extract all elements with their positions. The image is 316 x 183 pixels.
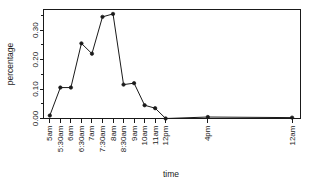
data-point [69,86,72,89]
data-point [164,117,167,120]
data-point [90,52,93,55]
data-point [101,15,104,18]
x-axis-tick-label: 4pm [203,125,212,141]
x-axis-tick-label: 12am [288,125,297,145]
chart-figure: 0.000.100.200.30 5am5:30am6am6:30am7am7:… [0,0,316,183]
data-point [80,42,83,45]
x-axis-tick-label: 5:30am [56,125,65,152]
y-axis-tick-label: 0.10 [31,81,40,97]
y-axis-tick-label: 0.20 [31,51,40,67]
x-axis-tick-label: 8:30am [119,125,128,152]
data-point [143,104,146,107]
x-axis-tick-label: 12pm [161,125,170,145]
data-point [132,81,135,84]
x-axis-tick-label: 7am [87,125,96,141]
data-point [48,114,51,117]
x-axis-tick-label: 9am [130,125,139,141]
chart-background [0,0,316,183]
data-point [122,83,125,86]
x-axis-tick-label: 6am [66,125,75,141]
y-axis-tick-label: 0.30 [31,22,40,38]
data-point [153,106,156,109]
x-axis-title: time [163,169,179,179]
data-point [59,86,62,89]
x-axis-tick-label: 8am [109,125,118,141]
x-axis-tick-label: 6:30am [77,125,86,152]
x-axis-tick-label: 5am [45,125,54,141]
data-point [111,12,114,15]
data-point [206,115,209,118]
data-point [290,116,293,119]
y-axis-title: percentage [5,42,15,85]
line-chart-plot: 0.000.100.200.30 5am5:30am6am6:30am7am7:… [0,0,316,183]
x-axis-tick-label: 10am [140,125,149,145]
x-axis-tick-label: 7:30am [98,125,107,152]
x-axis-tick-label: 11am [151,125,160,145]
y-axis-tick-label: 0.00 [31,110,40,126]
